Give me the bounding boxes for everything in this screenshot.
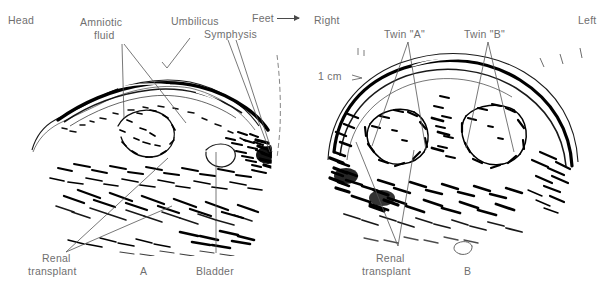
label-renal-transplant-a-line2: transplant [28,265,77,277]
leader-symphysis-b [236,40,272,152]
panel-b: Right Left 1 cm Twin "A" Twin "B" Renalt… [304,0,607,294]
leader-twin-b-left [466,42,488,148]
label-renal-transplant-b-line1: Renal [376,252,405,265]
leader-scale-arrow-icon [352,75,362,80]
label-amniotic-fluid-line2: fluid [94,29,115,42]
label-renal-transplant-a-line1: Renal [42,252,71,265]
label-amniotic-fluid-line1: Amniotic [80,16,122,28]
label-head: Head [8,14,34,26]
label-twin-b: Twin "B" [464,28,505,40]
label-renal-transplant-a: Renaltransplant [28,252,77,277]
leader-umbilicus [162,38,190,68]
leader-renal-b-right [398,150,414,246]
label-scale-1cm: 1 cm [318,70,342,82]
label-feet: Feet [252,12,299,24]
label-renal-transplant-b-line2: transplant [362,265,411,277]
label-bladder: Bladder [196,265,234,277]
panel-a-letter: A [140,265,147,277]
label-amniotic-fluid: Amnioticfluid [80,16,122,41]
panel-b-leader-lines [304,0,607,294]
label-renal-transplant-b: Renaltransplant [362,252,411,277]
label-left: Left [578,14,597,26]
feet-direction-arrow-icon [277,18,299,19]
label-twin-a: Twin "A" [384,28,425,40]
leader-twin-a-left [372,42,408,146]
ultrasound-figure: Head Amnioticfluid Umbilicus Symphysis F… [0,0,607,294]
panel-a: Head Amnioticfluid Umbilicus Symphysis F… [0,0,303,294]
panel-a-leader-lines [0,0,303,294]
label-right: Right [314,14,340,26]
leader-twin-b-right [488,42,514,152]
leader-symphysis-a [228,40,270,152]
label-symphysis: Symphysis [204,28,257,40]
leader-renal-b-left [356,142,398,246]
leader-amniotic-left [122,44,124,118]
label-feet-text: Feet [252,12,274,24]
leader-renal-b [66,206,172,252]
panel-b-letter: B [464,265,471,277]
leader-twin-a-right [408,42,426,150]
label-umbilicus: Umbilicus [171,15,219,27]
leader-renal-a [66,158,168,252]
